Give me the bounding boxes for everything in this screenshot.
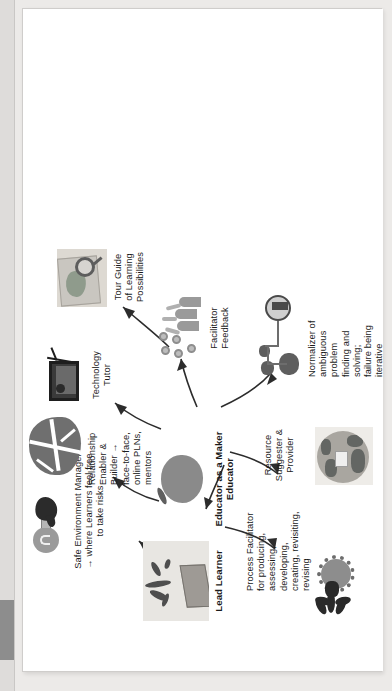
node-center-educator[interactable]: Educator as a Maker Educator (155, 429, 245, 529)
tomato-icon (155, 447, 207, 507)
node-facilitator-feedback-label: Facilitator Feedback (209, 291, 231, 365)
map-magnifier-icon (57, 249, 107, 307)
screenshot-viewport: Lead Learner Safe Environment Manager → … (0, 0, 392, 691)
diagram-canvas: Lead Learner Safe Environment Manager → … (23, 9, 383, 671)
globe-icon (315, 427, 373, 485)
node-tour-guide[interactable]: Tour Guide of Learning Possibilities (57, 235, 167, 319)
document-page: Lead Learner Safe Environment Manager → … (22, 8, 382, 672)
page-edge-divider (14, 0, 15, 691)
node-lead-learner-label: Lead Learner (213, 535, 224, 627)
node-normalizer-label: Normalizer of ambiguous problem finding … (307, 285, 383, 377)
node-process-facilitator-label: Process Facilitator for producing, asses… (245, 481, 312, 591)
television-icon (45, 341, 85, 407)
node-process-facilitator[interactable]: Process Facilitator for producing, asses… (245, 483, 373, 615)
people-group-icon (159, 297, 205, 359)
node-technology-tutor[interactable]: Technology Tutor (45, 335, 139, 415)
microbe-icon (311, 543, 359, 615)
node-relationship-enabler-builder[interactable]: Relationship Enabler & Builder → face-to… (27, 403, 157, 493)
network-diagram-icon (259, 289, 303, 377)
node-facilitator-feedback[interactable]: Facilitator Feedback (159, 291, 249, 365)
vertical-scrollbar-track[interactable] (0, 0, 14, 691)
potted-plant-icon (143, 541, 209, 621)
vertical-scrollbar-thumb[interactable] (0, 600, 14, 660)
node-center-educator-label: Educator as a Maker Educator (213, 429, 235, 529)
node-tour-guide-label: Tour Guide of Learning Possibilities (113, 235, 147, 319)
brain-icon (27, 415, 83, 477)
node-lead-learner[interactable]: Lead Learner (143, 535, 229, 627)
rotated-page-wrapper: Lead Learner Safe Environment Manager → … (23, 9, 383, 671)
node-normalizer[interactable]: Normalizer of ambiguous problem finding … (259, 285, 379, 381)
lightbulb-hand-icon (31, 491, 65, 557)
node-technology-tutor-label: Technology Tutor (91, 335, 113, 415)
